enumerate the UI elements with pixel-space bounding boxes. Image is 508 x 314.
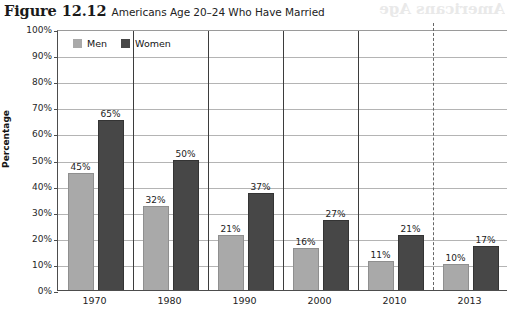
legend-item-women[interactable]: Women [121,38,171,49]
y-axis-tick-label: 10% [8,260,52,270]
bar-value-label: 50% [175,149,195,159]
bar-value-label: 21% [220,224,240,234]
y-axis-tick-mark [54,31,58,32]
legend-swatch-icon [73,39,82,48]
x-axis-tick-label: 2013 [457,295,481,306]
bar-women-2000: 27% [323,220,349,290]
legend-label: Women [135,38,171,49]
bar-value-label: 45% [70,162,90,172]
y-axis-tick-label: 90% [8,51,52,61]
y-axis-tick-label: 0% [8,286,52,296]
x-axis-tick-label: 1970 [82,295,106,306]
category-separator [133,31,134,290]
bar-men-1970: 45% [68,173,94,290]
bar-men-1980: 32% [143,206,169,290]
y-axis-tick-label: 40% [8,182,52,192]
y-axis-tick-mark [54,214,58,215]
bar-women-1980: 50% [173,160,199,291]
y-axis-tick-label: 80% [8,77,52,87]
figure-number: Figure 12.12 [4,2,107,19]
y-axis-tick-mark [54,83,58,84]
bar-women-2013: 17% [473,246,499,290]
x-axis-tick-label: 2000 [307,295,331,306]
bar-value-label: 32% [145,195,165,205]
category-separator [358,31,359,290]
bar-chart: Percentage 100%90%80%70%60%50%40%30%20%1… [0,22,508,314]
bar-value-label: 65% [100,109,120,119]
y-axis-tick-label: 30% [8,208,52,218]
chart-legend: MenWomen [73,38,171,49]
y-axis-tick-mark [54,266,58,267]
legend-label: Men [87,38,107,49]
bar-women-1990: 37% [248,193,274,290]
y-axis-tick-mark [54,240,58,241]
figure-caption: Figure 12.12Americans Age 20–24 Who Have… [4,1,504,21]
y-axis-tick-label: 50% [8,156,52,166]
y-axis-tick-mark [54,135,58,136]
bar-value-label: 16% [295,237,315,247]
y-axis-tick-mark [54,292,58,293]
y-axis-tick-label: 20% [8,234,52,244]
bar-men-2010: 11% [368,261,394,290]
y-axis-tick-mark [54,57,58,58]
y-axis-tick-label: 70% [8,103,52,113]
x-axis-tick-label: 2010 [382,295,406,306]
dashed-period-divider [433,23,434,290]
y-axis-tick-mark [54,162,58,163]
bar-value-label: 21% [400,224,420,234]
category-separator [283,31,284,290]
bar-women-1970: 65% [98,120,124,290]
plot-area: 45%65%32%50%21%37%16%27%11%21%10%17% Men… [57,30,507,291]
x-axis-tick-label: 1980 [157,295,181,306]
legend-swatch-icon [121,39,130,48]
bar-value-label: 27% [325,209,345,219]
y-axis-tick-labels: 100%90%80%70%60%50%40%30%20%10%0% [8,30,52,291]
y-axis-tick-label: 60% [8,129,52,139]
bar-men-2000: 16% [293,248,319,290]
bar-value-label: 11% [370,250,390,260]
x-axis-tick-label: 1990 [232,295,256,306]
bar-men-1990: 21% [218,235,244,290]
y-axis-tick-mark [54,109,58,110]
bar-value-label: 17% [475,235,495,245]
figure-title: Americans Age 20–24 Who Have Married [112,6,325,18]
y-axis-tick-label: 100% [8,25,52,35]
bar-men-2013: 10% [443,264,469,290]
bar-women-2010: 21% [398,235,424,290]
bar-value-label: 37% [250,182,270,192]
bar-value-label: 10% [445,253,465,263]
legend-item-men[interactable]: Men [73,38,107,49]
y-axis-tick-mark [54,188,58,189]
category-separator [208,31,209,290]
